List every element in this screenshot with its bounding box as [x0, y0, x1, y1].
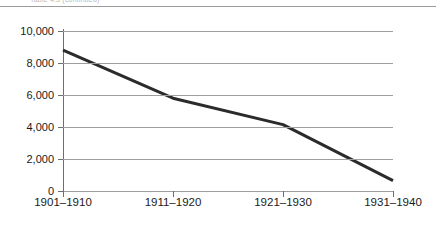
y-gridline	[63, 31, 393, 32]
y-axis-label: 0	[48, 186, 54, 197]
horizontal-rule	[0, 6, 436, 7]
y-gridline	[63, 159, 393, 160]
y-axis-label: 6,000	[26, 90, 54, 101]
clipped-caption-text: Table 4.3 (continued)	[30, 0, 210, 4]
data-series-line	[63, 31, 393, 191]
y-axis-label: 10,000	[20, 26, 54, 37]
x-axis-label: 1931–1940	[364, 196, 422, 208]
y-axis-label: 2,000	[26, 154, 54, 165]
chart-figure: Table 4.3 (continued) 02,0004,0006,0008,…	[0, 0, 436, 228]
y-gridline	[63, 95, 393, 96]
x-axis-label: 1911–1920	[145, 196, 202, 208]
x-axis-label: 1921–1930	[254, 196, 312, 208]
x-axis-label: 1901–1910	[34, 196, 92, 208]
y-gridline	[63, 191, 393, 192]
y-axis-label: 4,000	[26, 122, 54, 133]
y-axis-tick	[58, 31, 63, 32]
plot-area: 02,0004,0006,0008,00010,000	[63, 31, 393, 191]
y-gridline	[63, 127, 393, 128]
y-gridline	[63, 63, 393, 64]
y-axis-tick	[58, 63, 63, 64]
y-axis-label: 8,000	[26, 58, 54, 69]
y-axis-tick	[58, 159, 63, 160]
y-axis-tick	[58, 95, 63, 96]
y-axis-tick	[58, 127, 63, 128]
